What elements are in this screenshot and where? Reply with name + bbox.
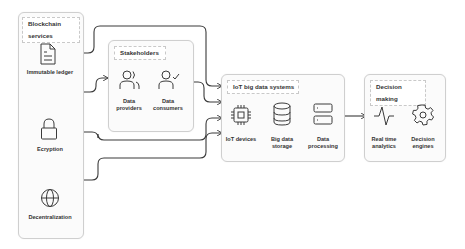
panel-title: IoT big data systems [227,80,299,94]
panel-title: Stakeholders [114,46,166,60]
globe-icon [40,188,60,208]
chip-icon [230,104,252,126]
document-icon [39,43,57,65]
user-check-icon [158,70,180,90]
iot-devices-label: IoT devices [222,136,260,143]
arrow-ledger-to-stakeholders [84,78,108,92]
lock-icon [40,118,58,140]
decision-engines-label: Decision engines [404,136,442,150]
data-providers-label: Data providers [110,98,148,112]
panel-title: Blockchain services [22,17,80,43]
encryption-label: Ecryption [20,146,80,153]
data-processing-label: Data processing [304,136,342,150]
decentralization-label: Decentralization [18,214,82,221]
big-data-storage-label: Big data storage [264,136,300,150]
pulse-icon [373,105,395,127]
server-icon [313,103,333,125]
database-icon [272,102,292,126]
panel-title: Decision making [370,80,426,106]
gear-icon [412,104,434,126]
immutable-ledger-label: Immutable ledger [20,69,80,76]
real-time-analytics-label: Real time analytics [366,136,402,150]
users-icon [118,70,140,90]
data-consumers-label: Data consumers [148,98,188,112]
